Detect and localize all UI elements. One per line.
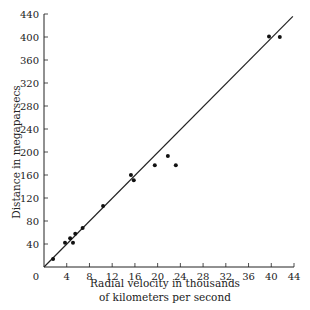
y-tick-label: 160 (20, 170, 39, 181)
y-tick-label: 280 (20, 101, 39, 112)
y-tick-label: 240 (20, 124, 39, 135)
data-point (71, 241, 75, 245)
data-point (267, 34, 271, 38)
y-tick-label: 400 (20, 32, 39, 43)
data-point (81, 226, 85, 230)
y-tick-label: 80 (26, 216, 39, 227)
axes: 0481216202428323640444080120160200240280… (20, 9, 300, 283)
y-tick-label: 200 (20, 147, 39, 158)
y-axis-label: Distance in megaparsecs (10, 85, 22, 218)
data-point (51, 257, 55, 261)
data-point (68, 236, 72, 240)
y-tick-label: 120 (20, 193, 39, 204)
y-tick-label: 360 (20, 55, 39, 66)
y-tick-label: 320 (20, 78, 39, 89)
data-point (132, 178, 136, 182)
x-axis-label-line2: of kilometers per second (99, 291, 231, 303)
x-tick-label: 44 (288, 271, 301, 282)
data-points (51, 34, 282, 261)
data-point (73, 232, 77, 236)
data-point (278, 35, 282, 39)
x-tick-label: 36 (242, 271, 255, 282)
data-point (129, 173, 133, 177)
data-point (174, 163, 178, 167)
data-point (63, 241, 67, 245)
y-tick-label: 40 (26, 239, 39, 250)
x-tick-label: 40 (265, 271, 278, 282)
data-point (166, 154, 170, 158)
data-point (101, 204, 105, 208)
x-axis-label-line1: Radial velocity in thousands (90, 277, 240, 289)
y-tick-label: 440 (20, 9, 39, 20)
hubble-scatter-chart: 0481216202428323640444080120160200240280… (0, 0, 310, 310)
x-tick-label: 4 (64, 271, 70, 282)
data-point (153, 163, 157, 167)
x-tick-label: 0 (33, 271, 39, 282)
